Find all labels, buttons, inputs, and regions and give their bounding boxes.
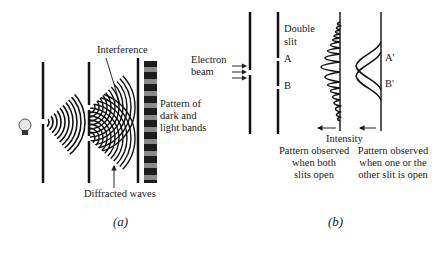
slit-a-label: A: [284, 53, 292, 65]
light-bulb-icon: [19, 119, 31, 135]
diagram-canvas: [0, 0, 434, 254]
both-open-label-line2: when both: [279, 157, 349, 169]
peak-b-label: B': [385, 78, 394, 90]
panel-a-diagram: [1, 58, 157, 188]
diffracted-waves-label: Diffracted waves: [84, 188, 156, 200]
pattern-label-line1: Pattern of: [160, 98, 201, 110]
one-open-label-line1: Pattern observed: [355, 145, 431, 157]
one-open-label-line2: when one or the: [355, 157, 431, 169]
caption-a: (a): [113, 214, 128, 230]
caption-b: (b): [328, 214, 343, 230]
double-slit-label-line2: slit: [284, 36, 297, 48]
interference-curve: [321, 22, 340, 121]
electron-label-line1: Electron: [191, 54, 227, 66]
electron-beam-arrows: [232, 66, 246, 78]
both-open-label-line3: slits open: [279, 169, 349, 181]
slit-b-label: B: [284, 80, 291, 92]
both-open-label-line1: Pattern observed: [279, 145, 349, 157]
interference-label: Interference: [97, 44, 148, 56]
one-open-label-line3: other slit is open: [355, 169, 431, 181]
pattern-label-line3: light bands: [160, 122, 206, 134]
peak-a-label: A': [385, 52, 394, 64]
double-slit-label-line1: Double: [284, 23, 315, 35]
band-pattern: [144, 61, 157, 183]
electron-label-line2: beam: [191, 66, 214, 78]
pattern-label-line2: dark and: [160, 110, 196, 122]
intensity-label: Intensity: [326, 133, 363, 145]
